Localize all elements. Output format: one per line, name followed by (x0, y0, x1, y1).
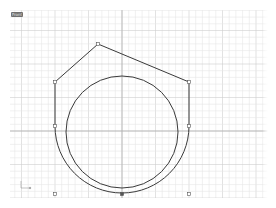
viewport-label[interactable]: Front (11, 12, 23, 17)
control-point[interactable] (188, 193, 191, 196)
control-point[interactable] (97, 43, 100, 46)
control-point[interactable] (121, 193, 124, 196)
control-point[interactable] (54, 81, 57, 84)
front-viewport[interactable]: Front (10, 10, 268, 198)
control-point[interactable] (54, 125, 57, 128)
viewport-edge-fade (262, 10, 268, 198)
control-point[interactable] (188, 81, 191, 84)
control-point[interactable] (188, 125, 191, 128)
viewport-canvas[interactable] (10, 10, 268, 198)
construction-grid (10, 10, 268, 198)
control-point[interactable] (54, 193, 57, 196)
